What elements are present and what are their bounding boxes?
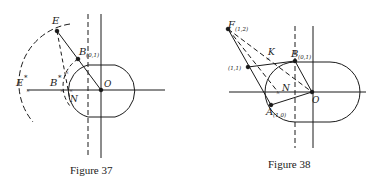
- point-B: [293, 59, 297, 63]
- label-F-sub: (1,2): [235, 26, 248, 32]
- point-B-star-mark: ×: [65, 69, 69, 77]
- label-O: O: [104, 79, 112, 89]
- label-P11: (1,1): [228, 65, 241, 71]
- figure-38: × ×: [226, 26, 366, 148]
- figure-38-labels: F (1,2) K B (0,1) (1,1) N O A (1,0) Figu…: [227, 19, 320, 170]
- caption-figure-38: Figure 38: [268, 158, 311, 170]
- point-P11: [246, 65, 250, 69]
- label-B-star-sup: *: [58, 74, 62, 82]
- point-E: [55, 29, 59, 33]
- label-E-star-sup: *: [24, 74, 28, 82]
- figure-37: × × × ×: [19, 14, 165, 158]
- tick-B-star: ×: [60, 87, 64, 95]
- point-B: [76, 57, 80, 61]
- label-N: N: [281, 83, 291, 93]
- label-O: O: [312, 95, 320, 105]
- label-E-star: E: [15, 77, 24, 88]
- label-B-sub: (0,1): [86, 52, 99, 58]
- point-N-mark: ×: [276, 89, 280, 97]
- label-A: A: [265, 106, 273, 117]
- diagram-canvas: × × × × E E * B (0,1) B * N O Figure 37: [0, 0, 375, 179]
- label-B-star: B: [49, 77, 57, 88]
- tick-E-star: ×: [26, 87, 30, 95]
- figure-37-labels: E E * B (0,1) B * N O Figure 37: [15, 15, 113, 176]
- label-E: E: [51, 15, 60, 26]
- label-K: K: [267, 47, 276, 57]
- label-B-sub: (0,1): [298, 54, 311, 60]
- point-O: [99, 88, 103, 92]
- point-O: [310, 90, 314, 94]
- label-N: N: [69, 94, 79, 104]
- caption-figure-37: Figure 37: [70, 164, 113, 176]
- label-A-sub: (1,0): [273, 112, 286, 118]
